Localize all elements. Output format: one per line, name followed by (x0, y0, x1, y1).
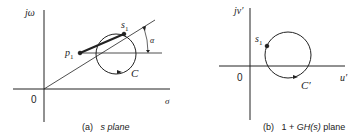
ray-origin-to-s1 (44, 20, 155, 89)
gh-plane-y-axis-label: jv′ (234, 6, 243, 16)
caption-b-suffix: plane (321, 122, 346, 132)
s-plane-y-axis-label: jω (25, 8, 35, 18)
caption-a-text: s plane (101, 122, 130, 132)
caption-b-prefix: 1 + (282, 122, 297, 132)
contour-c-label: C (131, 68, 138, 78)
angle-alpha-label: α (150, 36, 154, 46)
contour-c-prime-label: C′ (301, 80, 311, 90)
point-p1-dot (78, 51, 82, 55)
caption-b-tag: (b) (263, 122, 274, 132)
contour-c-prime (265, 32, 311, 78)
point-s1-subscript-b: 1 (259, 39, 263, 47)
figure-canvas (0, 0, 361, 138)
point-s1-subscript: 1 (125, 25, 129, 33)
point-p1-subscript: 1 (70, 53, 74, 61)
caption-b: (b) 1 + GH(s) plane (263, 122, 345, 132)
panel-a-graphics (13, 10, 170, 122)
point-s1-dot-b (265, 44, 269, 48)
caption-a: (a) s plane (82, 122, 130, 132)
point-s1-label: s1 (121, 20, 128, 34)
point-s1-label-b: s1 (255, 34, 262, 48)
s-plane-origin-label: 0 (31, 95, 37, 105)
s-plane-x-axis-label: σ (165, 96, 169, 106)
gh-plane-x-axis-label: u′ (340, 73, 347, 83)
gh-plane-origin-label: 0 (237, 73, 243, 83)
angle-arrow-bottom (146, 50, 150, 53)
caption-b-func: GH(s) (297, 122, 321, 132)
panel-b-graphics (219, 8, 345, 120)
contour-c (96, 34, 136, 74)
angle-alpha-arc (144, 28, 148, 52)
angle-arrow-top (142, 26, 146, 31)
caption-a-tag: (a) (82, 122, 93, 132)
point-p1-label: p1 (65, 48, 74, 62)
